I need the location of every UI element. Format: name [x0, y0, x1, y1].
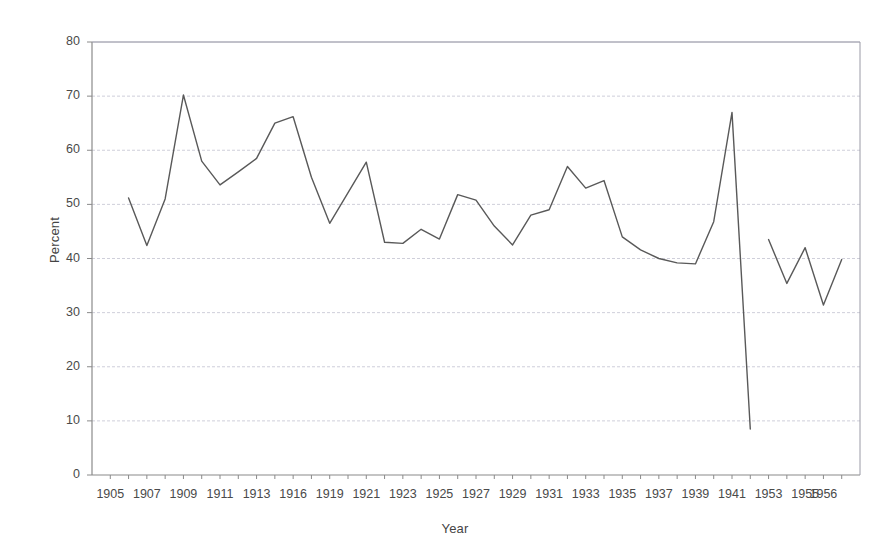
- x-tick-label: 1937: [639, 487, 679, 501]
- y-tick-label: 10: [50, 413, 80, 427]
- x-tick-label: 1927: [456, 487, 496, 501]
- plot-canvas: [0, 0, 891, 560]
- y-tick-label: 80: [50, 34, 80, 48]
- x-tick-label: 1935: [602, 487, 642, 501]
- x-tick-label: 1939: [675, 487, 715, 501]
- x-tick-label: 1923: [383, 487, 423, 501]
- x-tick-label: 1905: [90, 487, 130, 501]
- y-tick-label: 20: [50, 359, 80, 373]
- x-tick-label: 1913: [237, 487, 277, 501]
- x-tick-label: 1933: [566, 487, 606, 501]
- y-tick-label: 70: [50, 88, 80, 102]
- x-tick-label: 1909: [163, 487, 203, 501]
- x-tick-label: 1956: [803, 487, 843, 501]
- x-tick-label: 1925: [419, 487, 459, 501]
- x-tick-label: 1907: [127, 487, 167, 501]
- y-tick-label: 60: [50, 142, 80, 156]
- x-tick-label: 1916: [273, 487, 313, 501]
- y-tick-label: 0: [50, 467, 80, 481]
- x-tick-label: 1953: [749, 487, 789, 501]
- y-tick-label: 50: [50, 196, 80, 210]
- y-tick-label: 30: [50, 305, 80, 319]
- series-line-0: [129, 95, 751, 429]
- x-tick-label: 1931: [529, 487, 569, 501]
- y-axis-ticks: [87, 42, 92, 475]
- gridlines: [92, 42, 860, 421]
- x-axis-title: Year: [405, 521, 505, 536]
- y-tick-label: 40: [50, 251, 80, 265]
- line-chart: Percent Year 80706050403020100 190519071…: [0, 0, 891, 560]
- data-series-group: [129, 95, 842, 429]
- series-line-1: [769, 240, 842, 305]
- x-tick-label: 1919: [310, 487, 350, 501]
- x-tick-label: 1941: [712, 487, 752, 501]
- x-tick-label: 1921: [346, 487, 386, 501]
- x-tick-label: 1911: [200, 487, 240, 501]
- x-tick-label: 1929: [493, 487, 533, 501]
